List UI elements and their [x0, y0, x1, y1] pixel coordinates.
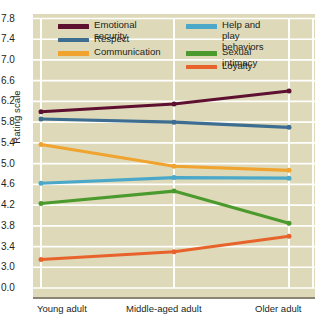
data-point	[39, 181, 44, 186]
series-line	[41, 178, 289, 184]
legend: Emotional securityRespectCommunicationHe…	[58, 20, 315, 80]
data-point	[287, 168, 292, 173]
y-tick-label: 5.8	[1, 116, 29, 128]
legend-color-swatch	[186, 51, 217, 56]
y-tick-label: 5.0	[1, 158, 29, 170]
y-tick-label: 7.4	[1, 33, 29, 45]
data-point	[287, 125, 292, 130]
x-tick-label: Older adult	[255, 302, 301, 316]
data-point	[172, 189, 177, 194]
x-axis-line	[33, 297, 315, 299]
series-line	[41, 119, 289, 127]
legend-color-swatch	[58, 24, 89, 29]
data-point	[172, 175, 177, 180]
series-line	[41, 236, 289, 259]
legend-color-swatch	[58, 38, 89, 43]
data-point	[39, 109, 44, 114]
legend-color-swatch	[186, 65, 217, 70]
y-tick-label: 3.4	[1, 241, 29, 253]
line-chart: Rating scale 7.87.47.06.66.25.85.45.04.6…	[0, 0, 315, 328]
y-tick-label: 4.6	[1, 178, 29, 190]
data-point	[287, 89, 292, 94]
data-point	[287, 221, 292, 226]
series-line	[41, 144, 289, 170]
data-point	[172, 120, 177, 125]
data-point	[39, 257, 44, 262]
y-tick-label: 3.8	[1, 220, 29, 232]
legend-color-swatch	[186, 24, 217, 29]
y-tick-label: 4.2	[1, 199, 29, 211]
y-tick-label: 5.4	[1, 137, 29, 149]
data-point	[172, 102, 177, 107]
data-point	[287, 176, 292, 181]
y-tick-label: 3.0	[1, 261, 29, 273]
data-point	[172, 164, 177, 169]
data-point	[172, 249, 177, 254]
data-point	[39, 117, 44, 122]
y-tick-label: 7.8	[1, 13, 29, 25]
data-point	[39, 142, 44, 147]
y-tick-label: 0.0	[1, 282, 29, 294]
legend-label: Loyalty	[222, 60, 252, 71]
y-tick-label: 6.2	[1, 95, 29, 107]
data-point	[39, 201, 44, 206]
y-tick-label: 6.6	[1, 75, 29, 87]
x-tick-label: Middle-aged adult	[126, 302, 202, 316]
y-tick-label: 7.0	[1, 54, 29, 66]
series-line	[41, 191, 289, 223]
x-tick-label: Young adult	[37, 302, 87, 316]
legend-color-swatch	[58, 51, 89, 56]
legend-label: Respect	[94, 33, 129, 44]
data-point	[287, 234, 292, 239]
legend-label: Communication	[94, 46, 161, 57]
